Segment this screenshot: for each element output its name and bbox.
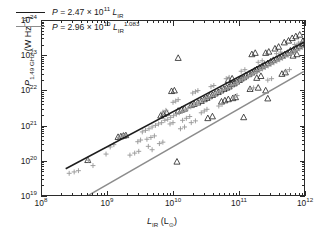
- x-minor-tick: [92, 193, 93, 196]
- marker-triangle: [276, 44, 282, 50]
- y-tick-mantissa: 10: [21, 156, 30, 166]
- x-tick-mantissa: 10: [165, 198, 174, 208]
- legend-coefficient: 2.47: [68, 7, 85, 17]
- y-minor-tick: [41, 96, 44, 97]
- y-major-tick-right: [300, 55, 306, 56]
- y-minor-tick-right: [302, 179, 305, 180]
- x-minor-tick-top: [290, 20, 291, 23]
- legend-variable-subscript: IR: [118, 26, 124, 33]
- y-minor-tick-right: [302, 185, 305, 186]
- y-minor-tick-right: [302, 69, 305, 70]
- y-minor-tick: [41, 179, 44, 180]
- x-minor-tick: [204, 193, 205, 196]
- fit-line-linear-fit: [66, 42, 304, 169]
- legend-line-swatch: [16, 26, 45, 27]
- y-minor-tick: [41, 101, 44, 102]
- x-tick-mantissa: 10: [231, 198, 240, 208]
- x-tick-exponent: 10: [174, 196, 181, 203]
- x-minor-tick: [219, 193, 220, 196]
- y-axis-symbol: P: [23, 80, 33, 86]
- x-minor-tick: [81, 193, 82, 196]
- y-major-tick: [41, 90, 47, 91]
- x-minor-tick: [153, 193, 154, 196]
- x-minor-tick-top: [224, 20, 225, 23]
- y-minor-tick: [41, 94, 44, 95]
- y-minor-tick: [41, 45, 44, 46]
- x-minor-tick-top: [158, 20, 159, 23]
- y-minor-tick-right: [302, 38, 305, 39]
- x-major-tick-top: [305, 20, 306, 26]
- y-tick-mantissa: 10: [21, 191, 30, 201]
- data-layer: [42, 21, 304, 195]
- marker-triangle: [258, 73, 264, 79]
- y-minor-tick: [41, 74, 44, 75]
- x-tick-exponent: 9: [110, 196, 113, 203]
- y-minor-tick: [41, 80, 44, 81]
- marker-triangle: [255, 85, 261, 91]
- legend-label: P = 2.96 × 1010 LIR1.083: [52, 23, 139, 32]
- marker-triangle: [174, 159, 180, 165]
- y-minor-tick-right: [302, 140, 305, 141]
- legend-variable-exponent: 1.083: [124, 20, 139, 27]
- x-minor-tick-top: [153, 20, 154, 23]
- x-axis-subscript: IR: [152, 221, 158, 228]
- x-tick-label: 1011: [231, 199, 247, 207]
- legend-base-exponent: 11: [104, 5, 110, 12]
- x-minor-tick-top: [236, 20, 237, 23]
- y-major-tick-right: [300, 126, 306, 127]
- y-minor-tick: [41, 185, 44, 186]
- x-major-tick: [107, 191, 108, 197]
- y-minor-tick-right: [302, 34, 305, 35]
- marker-plus: [67, 171, 72, 176]
- x-axis-title: LIR (L⊙): [0, 216, 324, 226]
- x-minor-tick-top: [204, 20, 205, 23]
- y-axis-subscript: 1.49 GHz: [28, 54, 35, 80]
- y-minor-tick: [41, 34, 44, 35]
- y-minor-tick-right: [302, 45, 305, 46]
- x-minor-tick-top: [259, 20, 260, 23]
- marker-plus: [104, 152, 109, 157]
- marker-triangle: [175, 55, 181, 61]
- y-minor-tick-right: [302, 96, 305, 97]
- y-minor-tick-right: [302, 115, 305, 116]
- x-minor-tick: [72, 193, 73, 196]
- y-tick-exponent: 19: [30, 189, 37, 196]
- marker-triangle: [241, 114, 247, 120]
- y-minor-tick-right: [302, 136, 305, 137]
- x-minor-tick-top: [233, 20, 234, 23]
- legend-item-power-law-fit[interactable]: P = 2.96 × 1010 LIR1.083: [16, 23, 139, 32]
- x-minor-tick: [295, 193, 296, 196]
- scatter-plot-svg: [42, 21, 304, 195]
- marker-plus: [195, 88, 200, 93]
- x-minor-tick: [147, 193, 148, 196]
- x-minor-tick: [163, 193, 164, 196]
- x-minor-tick: [193, 193, 194, 196]
- x-major-tick-top: [173, 20, 174, 26]
- y-major-tick-right: [300, 196, 306, 197]
- y-minor-tick-right: [302, 144, 305, 145]
- y-minor-tick: [41, 115, 44, 116]
- y-minor-tick: [41, 98, 44, 99]
- x-major-tick: [239, 191, 240, 197]
- y-minor-tick: [41, 169, 44, 170]
- x-minor-tick: [61, 193, 62, 196]
- legend: P = 2.47 × 1011 LIRP = 2.96 × 1010 LIR1.…: [16, 8, 139, 31]
- x-minor-tick-top: [167, 20, 168, 23]
- y-minor-tick-right: [302, 129, 305, 130]
- y-minor-tick-right: [302, 166, 305, 167]
- y-minor-tick: [41, 57, 44, 58]
- y-minor-tick-right: [302, 127, 305, 128]
- legend-P-symbol: P: [52, 22, 58, 32]
- y-minor-tick: [41, 127, 44, 128]
- x-minor-tick: [290, 193, 291, 196]
- y-minor-tick: [41, 164, 44, 165]
- legend-item-linear-fit[interactable]: P = 2.47 × 1011 LIR: [16, 8, 139, 17]
- y-minor-tick-right: [302, 162, 305, 163]
- marker-plus: [171, 100, 176, 105]
- figure-container: 108109101010111012 101910201021102210231…: [0, 0, 324, 241]
- marker-plus: [162, 118, 167, 123]
- y-minor-tick: [41, 175, 44, 176]
- x-tick-exponent: 12: [306, 196, 313, 203]
- x-major-tick-top: [239, 20, 240, 26]
- y-minor-tick-right: [302, 133, 305, 134]
